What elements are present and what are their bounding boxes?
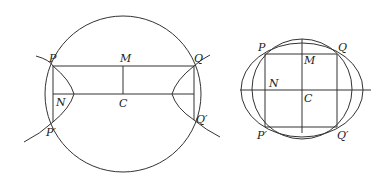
ellipse-figure: P Q M N C P′ Q′ [240,39,371,142]
hyperbola-figure: P M Q N C P′ Q′ [24,16,220,172]
label-p: P [48,52,57,65]
label-m: M [119,52,132,65]
label-p-prime: P′ [45,126,56,139]
diagram-canvas: P M Q N C P′ Q′ P Q M N C P′ Q′ [0,0,392,183]
label-q-prime: Q′ [196,113,208,126]
label-n: N [55,96,66,109]
label-q: Q [338,41,347,54]
label-q-prime: Q′ [337,129,349,142]
label-q: Q [194,52,203,65]
label-m: M [303,54,316,67]
label-n: N [268,77,279,90]
label-c: C [119,97,128,110]
label-p-prime: P′ [256,129,267,142]
label-c: C [304,92,313,105]
label-p: P [257,41,266,54]
